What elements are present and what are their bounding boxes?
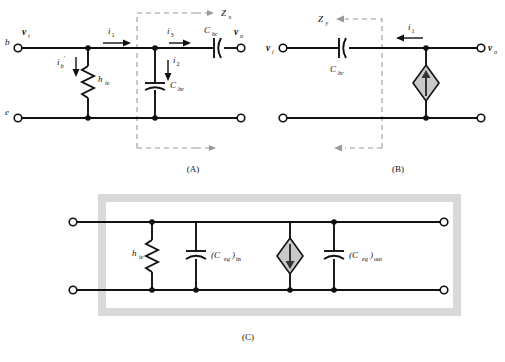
panel-c-input-common-terminal [69, 286, 77, 294]
panel-c-ceq-in-label: (C [211, 250, 221, 260]
panel-c-caption: (C) [242, 332, 254, 342]
panel-c-input-terminal [69, 218, 77, 226]
panel-a-cbc-label: C [204, 25, 211, 35]
panel-a-i2-label-sub: 2 [177, 60, 180, 67]
panel-a-output-terminal [237, 44, 245, 52]
zy-label-sub: y [325, 19, 329, 26]
panel-a-hie-label-sub: ie [105, 79, 110, 86]
panel-b-caption: (B) [392, 164, 404, 174]
panel-a-emitter-label: e [5, 107, 9, 117]
panel-a-ib-label-sub: b [61, 62, 64, 69]
panel-a-output-common-terminal [237, 114, 245, 122]
panel-b-input-common-terminal [279, 114, 287, 122]
panel-b-output-common-terminal [477, 114, 485, 122]
panel-a-hie-label: h [98, 74, 103, 84]
panel-a-vi-label-sub: i [28, 32, 30, 39]
panel-b-cbc-label: C [330, 64, 337, 74]
panel-a-caption: (A) [187, 164, 200, 174]
panel-b-cbc-label-sub: bc [338, 69, 344, 76]
panel-c-hie-label: h [132, 248, 137, 258]
panel-a-common-terminal [14, 114, 22, 122]
panel-b-input-terminal [279, 44, 287, 52]
panel-c-output-terminal [440, 218, 448, 226]
panel-b-output-terminal [477, 44, 485, 52]
circuit-figure: Z x b e v i v o i 1 [0, 0, 505, 362]
panel-a-vo-label-sub: o [240, 32, 243, 39]
panel-b-vo-label-sub: o [494, 48, 497, 55]
panel-a-cbe-label: C [170, 80, 177, 90]
panel-b-vi-label-sub: i [272, 48, 274, 55]
panel-a-cbc-label-sub: bc [212, 30, 218, 37]
zx-label-sub: x [228, 13, 232, 20]
panel-a-ib-prime: ' [64, 54, 65, 61]
panel-c-ceq-in-label-suffix: ) [231, 250, 235, 260]
panel-a-i3-label-sub: 3 [171, 31, 174, 38]
panel-c-ceq-out-label-suffix-sub: out [374, 255, 382, 262]
panel-a-base-label: b [5, 37, 10, 47]
panel-c-ceq-in-label-suffix-sub: in [236, 255, 241, 262]
circuit-svg: Z x b e v i v o i 1 [0, 0, 505, 362]
panel-c-ceq-out-label-sub: eq [362, 255, 368, 262]
panel-a-i1-label-sub: 1 [112, 31, 115, 38]
panel-c-output-common-terminal [440, 286, 448, 294]
panel-a-cbe-label-sub: be [178, 85, 184, 92]
panel-a-input-terminal [14, 44, 22, 52]
panel-b-i1-label-sub: 1 [412, 27, 415, 34]
panel-c-ceq-out-label-suffix: ) [369, 250, 373, 260]
panel-c-ceq-out-label: (C [349, 250, 359, 260]
figure-background [0, 0, 505, 362]
panel-c-hie-label-sub: ie [139, 253, 144, 260]
panel-c-ceq-in-label-sub: eq [224, 255, 230, 262]
